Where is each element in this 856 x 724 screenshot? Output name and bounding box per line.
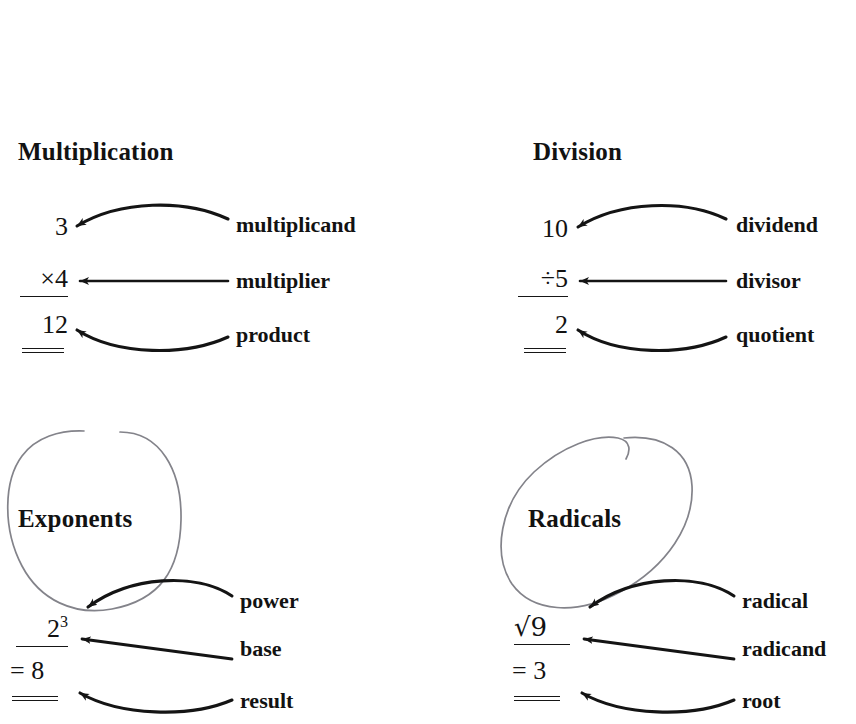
radicals-radical-expression: √9 xyxy=(514,612,570,645)
label-radicand: radicand xyxy=(742,636,826,662)
arrow-base xyxy=(82,639,232,659)
label-base: base xyxy=(240,636,282,662)
label-radical: radical xyxy=(742,588,808,614)
exponents-base-digit: 2 xyxy=(47,614,60,643)
division-double-rule xyxy=(524,348,566,353)
division-operand-1: 10 xyxy=(518,214,568,244)
exponents-exponent-digit: 3 xyxy=(60,613,68,630)
arrow-power xyxy=(88,580,232,607)
label-divisor: divisor xyxy=(736,268,801,294)
section-heading-radicals: Radicals xyxy=(528,505,621,533)
radicals-result: = 3 xyxy=(512,656,570,686)
section-heading-multiplication: Multiplication xyxy=(18,138,174,166)
label-product: product xyxy=(236,322,310,348)
label-multiplicand: multiplicand xyxy=(236,212,356,238)
label-multiplier: multiplier xyxy=(236,268,330,294)
section-heading-exponents: Exponents xyxy=(18,505,132,533)
label-quotient: quotient xyxy=(736,322,814,348)
section-heading-division: Division xyxy=(533,138,622,166)
arrow-radical xyxy=(590,580,734,607)
arrow-dividend xyxy=(578,206,726,227)
label-result: result xyxy=(240,688,293,714)
exponents-result: = 8 xyxy=(10,656,68,686)
label-root: root xyxy=(742,688,781,714)
label-dividend: dividend xyxy=(736,212,818,238)
division-result: 2 xyxy=(518,310,568,340)
annotation-layer xyxy=(0,0,856,724)
multiplication-double-rule xyxy=(22,348,64,353)
multiplication-result: 12 xyxy=(20,310,68,340)
arrow-result xyxy=(80,693,232,712)
diagram-canvas: Multiplication 3 ×4 12 multiplicand mult… xyxy=(0,0,856,724)
exponents-power-expression: 23 xyxy=(16,614,68,647)
arrow-product xyxy=(77,330,228,350)
exponents-double-rule xyxy=(12,696,58,701)
arrow-multiplicand xyxy=(77,205,228,226)
arrow-quotient xyxy=(578,330,726,350)
multiplication-operand-1: 3 xyxy=(20,212,68,242)
radicals-double-rule xyxy=(514,696,560,701)
division-operand-2: ÷5 xyxy=(518,264,568,297)
arrow-radicand xyxy=(584,639,734,659)
multiplication-operand-2: ×4 xyxy=(20,264,68,297)
arrow-root xyxy=(582,693,734,712)
label-power: power xyxy=(240,588,299,614)
